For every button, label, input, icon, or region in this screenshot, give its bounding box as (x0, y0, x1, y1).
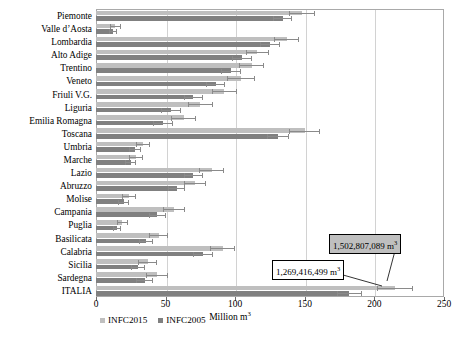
error-bar (129, 157, 143, 158)
error-bar (138, 262, 157, 263)
error-cap (205, 181, 206, 186)
error-cap (180, 108, 181, 113)
error-bar (131, 267, 145, 268)
error-cap (314, 11, 315, 16)
error-cap (136, 278, 137, 283)
error-bar (161, 110, 180, 111)
error-cap (120, 24, 121, 29)
error-bar (129, 149, 140, 150)
error-bar (232, 58, 251, 59)
legend-label: INFC2015 (108, 315, 147, 325)
error-bar (139, 241, 153, 242)
legend-item-infc2015: INFC2015 (100, 315, 147, 325)
error-cap (239, 63, 240, 68)
error-bar (267, 136, 289, 137)
error-cap (131, 265, 132, 270)
error-cap (234, 246, 235, 251)
bar-infc2005 (96, 68, 231, 73)
error-bar (337, 293, 362, 294)
error-cap (267, 134, 268, 139)
bar-infc2005 (96, 134, 278, 139)
x-axis-title: Million m3 (0, 310, 460, 322)
error-cap (298, 37, 299, 42)
error-cap (153, 121, 154, 126)
error-bar (239, 65, 264, 66)
error-cap (165, 213, 166, 218)
error-bar (221, 71, 240, 72)
error-cap (146, 273, 147, 278)
error-cap (412, 286, 413, 291)
error-cap (163, 207, 164, 212)
error-cap (184, 181, 185, 186)
error-cap (212, 252, 213, 257)
bar-row (96, 35, 444, 48)
error-bar (377, 288, 413, 289)
bar-infc2005 (96, 55, 242, 60)
error-bar (188, 104, 213, 105)
bar-infc2015 (96, 50, 257, 55)
error-cap (337, 291, 338, 296)
error-cap (149, 233, 150, 238)
error-cap (135, 160, 136, 165)
error-cap (149, 213, 150, 218)
error-bar (136, 280, 153, 281)
error-cap (149, 142, 150, 147)
error-cap (279, 42, 280, 47)
error-cap (156, 260, 157, 265)
error-cap (291, 16, 292, 21)
bar-infc2015 (96, 76, 241, 81)
error-cap (129, 155, 130, 160)
bar-infc2015 (96, 168, 212, 173)
bar-infc2015 (96, 102, 200, 107)
error-cap (319, 129, 320, 134)
error-cap (232, 56, 233, 61)
axis-tick-label: 250 (437, 299, 451, 309)
error-bar (110, 26, 121, 27)
bar-row (96, 218, 444, 231)
legend-item-infc2005: INFC2005 (158, 315, 205, 325)
bar-row (96, 114, 444, 127)
error-bar (171, 118, 196, 119)
bar-infc2015 (96, 37, 287, 42)
error-bar (289, 131, 320, 132)
error-cap (246, 50, 247, 55)
bar-infc2015 (96, 11, 302, 16)
error-bar (193, 254, 212, 255)
bar-row (96, 140, 444, 153)
error-cap (161, 108, 162, 113)
callout-infc2015: 1,502,807,089 m3 (329, 234, 401, 254)
error-cap (139, 239, 140, 244)
chart-legend: INFC2015 INFC2005 (100, 315, 206, 325)
bar-row (96, 61, 444, 74)
error-cap (240, 69, 241, 74)
error-bar (289, 13, 314, 14)
error-cap (236, 89, 237, 94)
error-cap (289, 129, 290, 134)
error-cap (202, 95, 203, 100)
error-cap (120, 226, 121, 231)
error-cap (152, 278, 153, 283)
error-cap (122, 194, 123, 199)
axis-tick-label: 150 (298, 299, 312, 309)
error-cap (184, 173, 185, 178)
category-axis-labels: PiemonteValle d’AostaLombardiaAlto Adige… (0, 9, 92, 297)
error-cap (210, 246, 211, 251)
error-bar (260, 44, 279, 45)
bar-infc2015 (96, 286, 395, 291)
bar-row (96, 9, 444, 22)
error-bar (212, 91, 237, 92)
axis-tick-label: 100 (228, 299, 242, 309)
error-bar (227, 78, 255, 79)
error-cap (224, 82, 225, 87)
error-cap (168, 186, 169, 191)
bar-infc2015 (96, 181, 195, 186)
legend-swatch-icon (158, 318, 163, 323)
error-cap (184, 207, 185, 212)
error-bar (199, 170, 224, 171)
error-cap (127, 220, 128, 225)
bar-row (96, 205, 444, 218)
bar-row (96, 22, 444, 35)
error-cap (152, 239, 153, 244)
error-cap (274, 37, 275, 42)
error-cap (129, 147, 130, 152)
